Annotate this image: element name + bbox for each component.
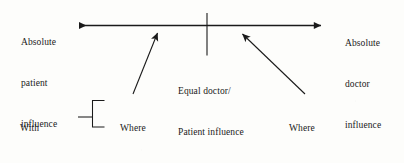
label-line: Absolute xyxy=(21,36,57,50)
grouping-bracket xyxy=(93,101,105,128)
label-line: Absolute xyxy=(345,37,381,51)
wants-to-be-arrow xyxy=(133,33,158,94)
label-line: doctor xyxy=(345,78,381,92)
label-where-joanne-is-now: Where Joanne is now xyxy=(289,95,316,163)
label-line: Equal doctor/ xyxy=(178,85,244,99)
label-equal-influence: Equal doctor/ Patient influence xyxy=(178,58,244,163)
label-line: Patient influence xyxy=(178,126,244,140)
label-line: influence xyxy=(345,119,381,133)
label-line: With xyxy=(20,122,63,136)
label-with-respect-to: With respect to Dr. Winner and food and … xyxy=(20,95,63,163)
influence-continuum-figure: Absolute patient influence Absolute doct… xyxy=(0,0,404,163)
label-line: Where xyxy=(289,122,316,136)
label-absolute-doctor-influence: Absolute doctor influence xyxy=(345,10,381,160)
label-line: Where xyxy=(112,122,156,136)
label-line: patient xyxy=(21,77,57,91)
label-where-joanne-wants-to-be: Where Joannc wants to be xyxy=(112,95,156,163)
is-now-arrow xyxy=(243,34,306,94)
